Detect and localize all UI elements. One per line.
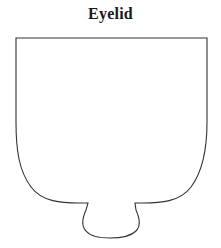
eyelid-outline-path xyxy=(16,38,207,238)
eyelid-diagram xyxy=(0,0,221,248)
figure-container: Eyelid xyxy=(0,0,221,248)
